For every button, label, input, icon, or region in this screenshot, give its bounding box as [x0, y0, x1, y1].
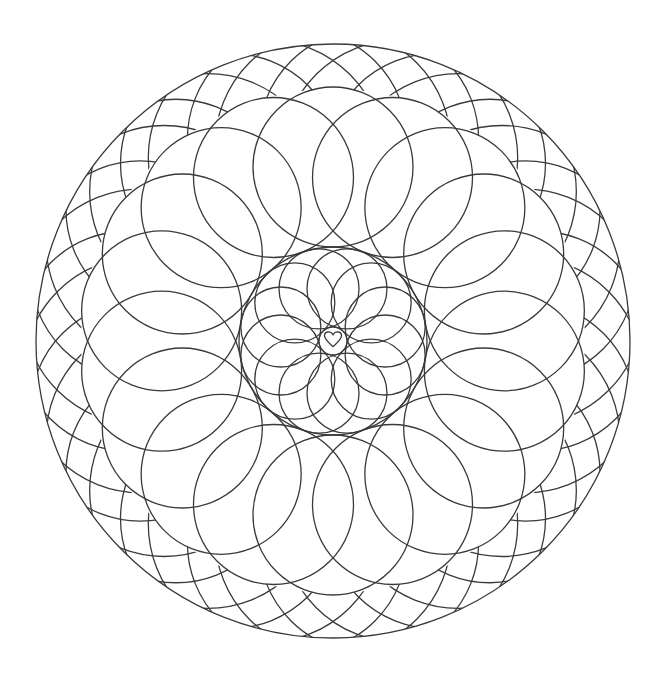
center-circle: [319, 327, 347, 355]
braid-arc: [187, 29, 407, 249]
braid-arc: [215, 28, 451, 264]
petal-circle: [313, 425, 473, 585]
petal-circle: [82, 231, 242, 391]
braid-arc: [30, 301, 250, 521]
braid-arc: [148, 40, 384, 276]
braid-arc: [428, 231, 648, 451]
braid-arc: [407, 257, 643, 493]
braid-arc: [46, 321, 282, 557]
braid-arc: [23, 257, 259, 493]
braid-arc: [259, 29, 479, 249]
braid-arc: [340, 372, 576, 608]
braid-arc: [282, 406, 518, 642]
braid-arc: [18, 231, 238, 451]
braid-arc: [340, 74, 576, 310]
braid-arc: [66, 363, 286, 583]
petal-circle: [313, 97, 473, 257]
braid-arc: [90, 74, 326, 310]
petal-circle: [365, 128, 525, 288]
braid-arc: [30, 161, 250, 381]
outer-braid-band: [18, 28, 648, 654]
heart-icon: [325, 332, 342, 347]
mandala-drawing: [0, 0, 670, 675]
mandala-canvas: [0, 0, 670, 675]
braid-arc: [282, 40, 518, 276]
middle-petal-ring: [82, 87, 585, 595]
petal-circle: [102, 348, 262, 508]
braid-arc: [259, 433, 479, 653]
petal-circle: [365, 394, 525, 554]
braid-arc: [90, 372, 326, 608]
petal-circle: [141, 128, 301, 288]
braid-arc: [23, 189, 259, 425]
braid-arc: [407, 189, 643, 425]
braid-arc: [46, 126, 282, 362]
inner-boundary-circle: [239, 247, 427, 435]
braid-arc: [384, 126, 620, 362]
petal-circle: [424, 291, 584, 451]
braid-arc: [187, 433, 407, 653]
braid-arc: [66, 99, 286, 319]
petal-circle: [404, 174, 564, 334]
braid-arc: [380, 99, 600, 319]
inner-rosette: [241, 249, 425, 433]
petal-circle: [253, 87, 413, 247]
braid-arc: [416, 161, 636, 381]
petal-circle: [424, 231, 584, 391]
braid-arc: [380, 363, 600, 583]
braid-arc: [384, 321, 620, 557]
petal-circle: [193, 97, 353, 257]
braid-arc: [416, 301, 636, 521]
petal-circle: [141, 394, 301, 554]
braid-arc: [148, 406, 384, 642]
petal-circle: [253, 435, 413, 595]
petal-circle: [82, 291, 242, 451]
braid-arc: [215, 418, 451, 654]
petal-circle: [404, 348, 564, 508]
petal-circle: [193, 425, 353, 585]
petal-circle: [102, 174, 262, 334]
